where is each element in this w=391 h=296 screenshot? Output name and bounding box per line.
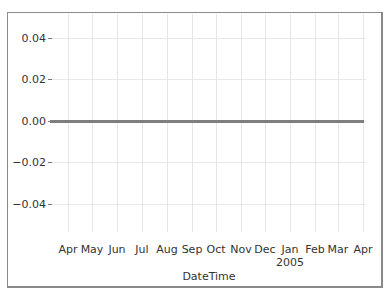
ytick-mark <box>48 162 52 163</box>
ytick-mark <box>48 79 52 80</box>
xtick-label: Apr <box>58 243 77 256</box>
xtick-label: Dec <box>254 243 275 256</box>
vgrid-jul <box>142 14 143 232</box>
ytick-label: 0.04 <box>22 32 47 45</box>
vgrid-feb <box>315 14 316 232</box>
vgrid-oct <box>216 14 217 232</box>
plot-area <box>52 14 366 232</box>
xtick-label: Aug <box>156 243 177 256</box>
xtick-label: May <box>81 243 104 256</box>
vgrid-sep <box>192 14 193 232</box>
vgrid-apr2 <box>363 14 364 232</box>
vgrid-may <box>92 14 93 232</box>
hgrid-0.02 <box>52 79 366 80</box>
vgrid-dec <box>265 14 266 232</box>
series-line <box>50 120 364 123</box>
xtick-label: Nov <box>230 243 251 256</box>
hgrid-0.04 <box>52 38 366 39</box>
xtick-label: Mar <box>328 243 349 256</box>
vgrid-jan <box>290 14 291 232</box>
xtick-label: Oct <box>206 243 225 256</box>
xtick-month: Jan <box>276 243 304 256</box>
ytick-label: 0.02 <box>22 73 47 86</box>
xtick-label: Feb <box>305 243 324 256</box>
vgrid-mar <box>338 14 339 232</box>
vgrid-aug <box>167 14 168 232</box>
xtick-year: 2005 <box>276 256 304 269</box>
xtick-label: Jul <box>135 243 148 256</box>
hgrid-neg0.02 <box>52 162 366 163</box>
ytick-label: −0.04 <box>12 198 46 211</box>
vgrid-nov <box>241 14 242 232</box>
x-axis-label: DateTime <box>52 270 366 283</box>
ytick-mark <box>48 204 52 205</box>
ytick-label: 0.00 <box>22 115 47 128</box>
xtick-label: Jun <box>108 243 125 256</box>
vgrid-jun <box>117 14 118 232</box>
xtick-label: Apr <box>353 243 372 256</box>
xtick-label: Sep <box>182 243 203 256</box>
vgrid-apr <box>68 14 69 232</box>
ytick-mark <box>48 38 52 39</box>
hgrid-neg0.04 <box>52 204 366 205</box>
ytick-label: −0.02 <box>12 156 46 169</box>
xtick-label-jan: Jan 2005 <box>276 243 304 269</box>
